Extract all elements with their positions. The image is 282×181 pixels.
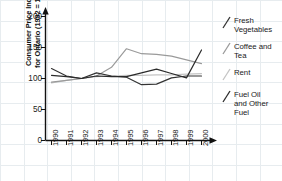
data-series (52, 49, 202, 85)
legend-swatch-icon (222, 41, 231, 57)
legend-item-fresh-vegetables: Fresh Vegetables (222, 16, 282, 35)
legend: Fresh Vegetables Coffee and Tea Rent Fue… (222, 16, 282, 125)
legend-swatch-icon (222, 15, 231, 31)
legend-label: Rent (234, 68, 250, 77)
legend-item-rent: Rent (222, 68, 282, 83)
legend-label: Fuel Oil and Other Fuel (234, 90, 268, 118)
legend-item-fuel-oil-and-other-fuel: Fuel Oil and Other Fuel (222, 90, 282, 118)
chart-container: Consumer Price Index for Ontario (1992 =… (0, 0, 282, 181)
legend-label: Fresh Vegetables (234, 16, 272, 35)
legend-swatch-icon (222, 67, 231, 83)
legend-swatch-icon (222, 89, 231, 105)
series-line-rent (52, 74, 202, 83)
legend-label: Coffee and Tea (234, 42, 272, 61)
legend-item-coffee-and-tea: Coffee and Tea (222, 42, 282, 61)
